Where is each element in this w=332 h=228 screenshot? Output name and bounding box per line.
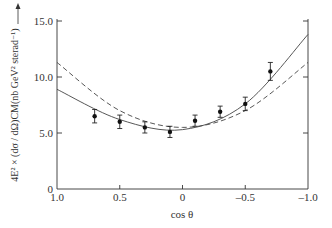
y-tick-label: 15.0 [34, 15, 54, 27]
x-tick-label: 0 [180, 191, 186, 203]
x-tick-label: 0.5 [113, 191, 127, 203]
y-tick-label: 5.0 [39, 127, 53, 139]
y-tick-label: 10.0 [34, 71, 54, 83]
y-axis-arrow-icon [16, 3, 21, 24]
x-tick-label: –0.5 [235, 191, 256, 203]
x-axis-label: cos θ [171, 208, 194, 220]
chart: 1.00.50–0.5–1.005.010.015.0 cos θ 4E² × … [0, 0, 332, 228]
x-tick-label: –1.0 [297, 191, 318, 203]
y-axis-label: 4E² × (dσ / dΩ)CM(nb GeV² sterad⁻¹) [9, 28, 21, 181]
data-point [243, 97, 248, 110]
data-point [117, 115, 122, 128]
data-point [193, 115, 198, 126]
data-point [167, 126, 172, 137]
axes: 1.00.50–0.5–1.005.010.015.0 [34, 15, 318, 203]
data-point [142, 122, 147, 133]
y-tick-label: 0 [48, 183, 54, 195]
data-point [92, 109, 97, 122]
data-points [92, 62, 273, 137]
data-point [218, 106, 223, 117]
